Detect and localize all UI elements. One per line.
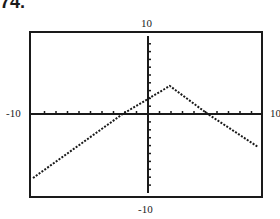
xmin-label: -10 xyxy=(6,107,21,119)
ymin-label: -10 xyxy=(138,203,153,215)
ymax-label: 10 xyxy=(141,17,152,29)
graph-line xyxy=(33,86,258,178)
graph-plot xyxy=(0,0,280,219)
xmax-label: 10 xyxy=(270,107,280,119)
